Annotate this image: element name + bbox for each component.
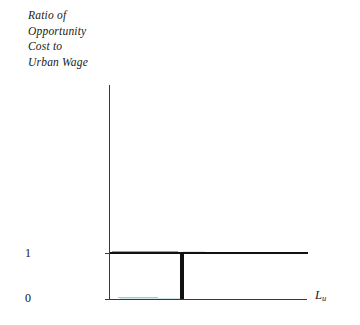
y-axis-title: Ratio of Opportunity Cost to Urban Wage — [28, 8, 88, 70]
y-tick-label-0: 0 — [13, 291, 31, 306]
x-axis-title: Lu — [315, 288, 326, 303]
chart-figure: Ratio of Opportunity Cost to Urban Wage … — [0, 0, 360, 325]
x-axis-line — [109, 299, 307, 300]
y-tick-label-1: 1 — [13, 246, 31, 261]
step-segment-second-plateau — [182, 252, 308, 254]
x-axis-label-subscript: u — [322, 293, 326, 303]
step-segment-rise-edge — [182, 252, 184, 300]
step-segment-first-plateau — [110, 252, 182, 254]
scan-fringe-artifact — [118, 297, 158, 298]
y-axis-line — [109, 85, 110, 300]
y-tick-mark-0 — [105, 299, 110, 300]
x-axis-label-main: L — [315, 288, 322, 302]
